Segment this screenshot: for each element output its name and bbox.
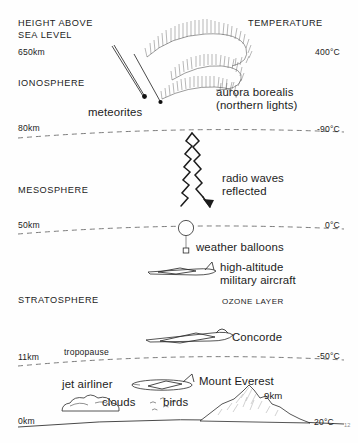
layer-label-stratosphere: STRATOSPHERE (18, 295, 99, 306)
aurora-label-line1: aurora borealis (216, 86, 293, 99)
radio-waves-label-line1: radio waves (222, 172, 284, 185)
altitude-label-650km: 650km (18, 47, 45, 57)
jet-airliner-label: jet airliner (62, 378, 113, 391)
radio-waves-icon (181, 133, 214, 208)
everest-height-label: 9km (264, 390, 282, 401)
jet-airliner-icon (132, 374, 194, 390)
altitude-label-11km: 11km (18, 352, 39, 362)
layer-label-ionosphere: IONOSPHERE (18, 78, 85, 89)
altitude-label-80km: 80km (18, 123, 40, 133)
military-aircraft-label-line2: military aircraft (220, 274, 296, 287)
height-axis-title-line2: SEA LEVEL (18, 30, 72, 41)
concorde-label: Concorde (232, 331, 282, 344)
birds-label: birds (163, 396, 188, 409)
weather-balloons-label: weather balloons (196, 241, 284, 254)
temperature-label-20c: 20°C (262, 417, 334, 427)
temperature-label-minus50c: -50°C (268, 351, 340, 361)
temperature-label-400c: 400°C (268, 47, 340, 57)
temperature-label-0c: 0°C (268, 220, 340, 230)
clouds-label: clouds (102, 396, 136, 409)
military-aircraft-icon (148, 262, 216, 275)
altitude-label-0km: 0km (18, 416, 35, 426)
mount-everest-label: Mount Everest (199, 375, 274, 388)
height-axis-title-line1: HEIGHT ABOVE (18, 18, 93, 29)
layer-label-mesosphere: MESOSPHERE (18, 185, 88, 196)
page-number: 12 (344, 422, 350, 429)
meteorites-icon (112, 45, 163, 104)
temperature-axis-title: TEMPERATURE (248, 18, 323, 29)
aurora-label-line2: (northern lights) (216, 99, 297, 112)
temperature-label-minus90c: -90°C (268, 124, 340, 134)
military-aircraft-label-line1: high-altitude (220, 261, 283, 274)
weather-balloon-icon (178, 220, 193, 253)
altitude-label-50km: 50km (18, 220, 40, 230)
meteorites-label: meteorites (88, 106, 142, 119)
radio-waves-label-line2: reflected (222, 185, 267, 198)
concorde-icon (146, 329, 233, 343)
atmosphere-layers-diagram: HEIGHT ABOVE SEA LEVEL TEMPERATURE 650km… (0, 0, 358, 443)
ozone-layer-label: OZONE LAYER (222, 297, 284, 306)
tropopause-label: tropopause (64, 347, 109, 357)
